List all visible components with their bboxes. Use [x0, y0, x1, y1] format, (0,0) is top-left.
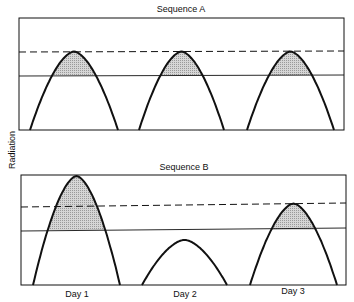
y-axis-label: Radiation	[7, 131, 17, 169]
panel-a-shaded-areas	[54, 52, 311, 76]
radiation-curve-day-2	[142, 240, 227, 285]
x-tick-day-3: Day 3	[281, 286, 305, 296]
panel-b-title: Sequence B	[159, 162, 208, 172]
panel-sequence-b	[21, 175, 346, 285]
panel-a-lower-threshold-line	[19, 75, 344, 76]
panel-sequence-a	[19, 18, 344, 130]
radiation-chart: Sequence A Radiation Sequence B Day 1 Da…	[0, 0, 354, 302]
panel-a-title: Sequence A	[157, 4, 206, 14]
x-tick-day-2: Day 2	[173, 289, 197, 299]
x-tick-day-1: Day 1	[65, 289, 89, 299]
